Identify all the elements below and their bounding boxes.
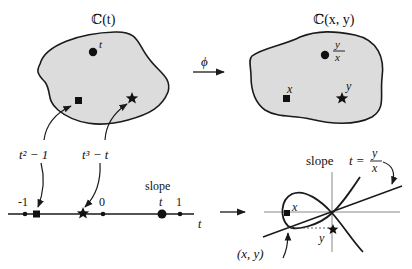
circle-point-label-den: x [334, 51, 340, 63]
field-c-xy: ℂ(x, y) y x x y [250, 12, 383, 123]
tick-dot-zero [101, 212, 106, 217]
field-c-xy-title: ℂ(x, y) [313, 12, 355, 28]
slope-label: slope [145, 179, 170, 193]
map-arrow-label: ϕ [201, 54, 208, 69]
tick-dot-minus-one [23, 212, 28, 217]
star-point-icon [328, 224, 339, 234]
square-point-icon [75, 97, 82, 104]
square-point-icon [284, 210, 290, 216]
circle-point-label-num: y [334, 38, 340, 50]
diagram-canvas: ℂ(t) t ϕ ℂ(x, y) y x x y t² − 1 t³ − t -… [0, 0, 412, 269]
number-line-axis-label: t [198, 217, 202, 231]
circle-point-icon [89, 48, 97, 56]
tick-label-minus-one: -1 [18, 195, 28, 209]
square-point-icon [33, 211, 40, 218]
star-point-icon [77, 207, 89, 219]
map-arrow: ϕ [193, 54, 224, 72]
number-line: -1 0 slope t 1 t [8, 179, 202, 231]
curved-arrow-xy [283, 233, 288, 258]
field-c-t-blob [38, 32, 169, 124]
tick-label-one: 1 [176, 195, 182, 209]
tick-label-zero: 0 [99, 195, 105, 209]
square-point-icon [283, 95, 290, 102]
field-c-t: ℂ(t) t [38, 12, 169, 124]
slope-point-label: t [159, 195, 163, 209]
point-y-label: y [318, 231, 325, 245]
field-c-xy-blob [250, 32, 383, 123]
circle-point-icon [321, 51, 329, 59]
star-point-label: y [345, 79, 352, 93]
tick-dot-one [178, 212, 183, 217]
slope-var: t = [349, 153, 365, 168]
point-x-label: x [291, 200, 298, 214]
curve-plot: x y (x, y) slope t = y x [237, 146, 402, 261]
star-preimage-label: t³ − t [82, 147, 109, 162]
slope-point-icon [158, 210, 167, 219]
curved-arrow-to-star-on-line [85, 163, 100, 207]
curved-arrow-to-square-on-line [38, 163, 43, 207]
field-c-t-title: ℂ(t) [91, 12, 116, 28]
square-preimage-label: t² − 1 [19, 147, 48, 162]
slope-frac-den: x [371, 161, 378, 175]
slope-frac-num: y [371, 146, 378, 160]
slope-text: slope [306, 153, 334, 168]
square-point-label: x [286, 82, 293, 96]
curved-arrow-slope [383, 162, 394, 184]
point-xy-label: (x, y) [237, 246, 264, 261]
